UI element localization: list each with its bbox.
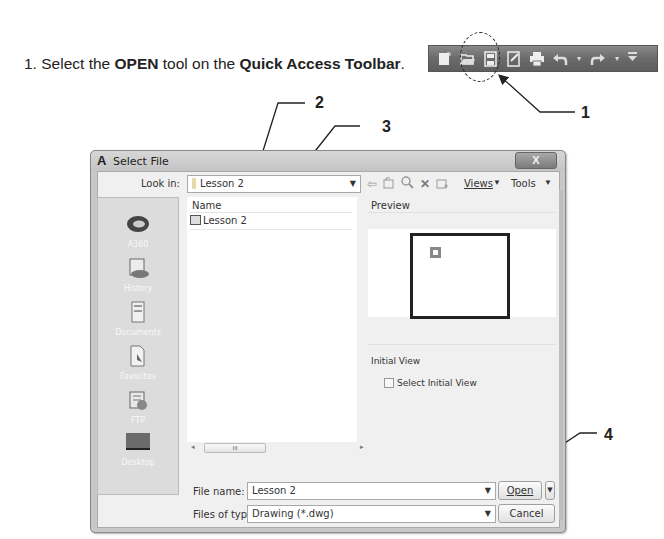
chevron-down-icon: ▼	[485, 506, 491, 522]
autocad-logo-icon: A	[97, 153, 106, 168]
callout-1: 1	[581, 104, 590, 122]
preview-label: Preview	[371, 200, 410, 211]
a360-icon	[125, 212, 151, 236]
up-folder-icon[interactable]	[383, 177, 395, 192]
history-icon	[125, 256, 151, 280]
look-in-label: Look in:	[140, 178, 180, 189]
header-divider	[190, 212, 352, 213]
select-initial-view-label: Select Initial View	[397, 378, 477, 388]
favorites-icon	[125, 344, 151, 368]
scroll-right-icon[interactable]: ▸	[360, 443, 364, 451]
cancel-button[interactable]: Cancel	[498, 504, 555, 523]
back-icon[interactable]: ⇦	[367, 177, 377, 191]
chevron-down-icon: ▼	[547, 486, 552, 494]
places-bar: A360 History Documents Favorites FTP Des…	[97, 197, 179, 495]
place-favorites[interactable]: Favorites	[98, 344, 178, 381]
ftp-icon	[125, 388, 151, 412]
documents-icon	[125, 300, 151, 324]
files-of-type-dropdown[interactable]: Drawing (*.dwg) ▼	[247, 505, 496, 523]
preview-drawing-square	[430, 247, 441, 258]
open-dropdown-button[interactable]: ▼	[545, 481, 555, 500]
desktop-icon	[125, 430, 151, 454]
name-column-header[interactable]: Name	[192, 200, 222, 211]
dialog-right-border	[559, 190, 563, 520]
preview-divider	[368, 212, 556, 213]
initial-view-label: Initial View	[371, 356, 420, 366]
create-folder-icon[interactable]	[436, 177, 449, 192]
file-list	[187, 197, 357, 442]
folder-icon	[192, 178, 196, 189]
preview-bottom-divider	[368, 344, 556, 345]
callout-2: 2	[315, 94, 324, 112]
place-ftp[interactable]: FTP	[98, 388, 178, 425]
preview-drawing-frame	[410, 233, 510, 319]
select-initial-view-checkbox[interactable]	[384, 378, 394, 388]
scroll-thumb[interactable]: III	[204, 443, 266, 453]
tools-menu[interactable]: Tools	[511, 178, 536, 189]
file-name-label: File name:	[193, 486, 245, 497]
look-in-dropdown[interactable]: Lesson 2 ▼	[187, 175, 361, 193]
callout-4: 4	[604, 426, 613, 444]
tools-dropdown-icon[interactable]: ▼	[544, 178, 552, 187]
chevron-down-icon: ▼	[350, 176, 356, 192]
scroll-left-icon[interactable]: ◂	[191, 443, 195, 451]
place-history[interactable]: History	[98, 256, 178, 293]
dialog-title: Select File	[113, 155, 169, 168]
search-web-icon[interactable]	[401, 176, 414, 192]
callout-3: 3	[382, 118, 391, 136]
place-a360[interactable]: A360	[98, 212, 178, 249]
close-button[interactable]: X	[515, 152, 557, 169]
drawing-folder-icon	[190, 215, 201, 225]
list-item[interactable]: Lesson 2	[190, 215, 352, 230]
place-documents[interactable]: Documents	[98, 300, 178, 337]
views-menu[interactable]: Views	[464, 178, 493, 189]
place-desktop[interactable]: Desktop	[98, 430, 178, 467]
delete-icon[interactable]: ✕	[420, 177, 430, 191]
dialog-toolbar: ⇦ ✕	[367, 176, 449, 192]
file-name-input[interactable]: Lesson 2 ▼	[247, 482, 496, 500]
views-dropdown-icon[interactable]: ▼	[493, 178, 501, 187]
open-button[interactable]: Open	[498, 481, 542, 500]
chevron-down-icon[interactable]: ▼	[485, 483, 491, 499]
